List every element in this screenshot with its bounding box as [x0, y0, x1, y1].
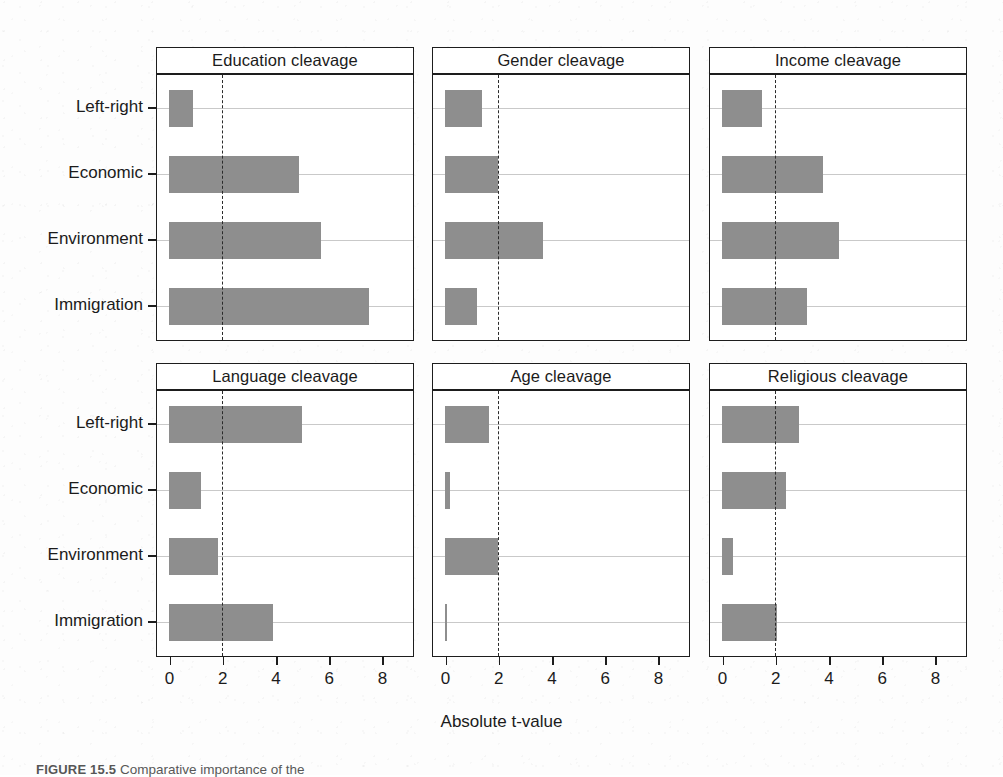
y-tick-label-economic: Economic — [68, 479, 143, 499]
x-tick — [552, 657, 554, 665]
bar-environment — [169, 538, 218, 575]
x-tick-label: 2 — [494, 669, 503, 689]
panel-gender-cleavage: Gender cleavage — [432, 47, 690, 343]
plot-area — [156, 74, 414, 341]
plot-area — [156, 390, 414, 657]
threshold-line — [222, 75, 223, 340]
bar-left-right — [722, 90, 762, 127]
bar-left-right — [445, 90, 482, 127]
panel-title-strip: Language cleavage — [156, 363, 414, 390]
x-tick — [223, 657, 225, 665]
x-axis-title: Absolute t-value — [0, 712, 1003, 732]
bar-immigration — [445, 604, 447, 641]
x-tick-label: 0 — [718, 669, 727, 689]
x-tick-label: 6 — [600, 669, 609, 689]
gridline — [433, 490, 689, 491]
bar-immigration — [169, 604, 273, 641]
threshold-line — [775, 75, 776, 340]
x-tick — [446, 657, 448, 665]
bar-economic — [445, 156, 498, 193]
figure-caption: FIGURE 15.5 Comparative importance of th… — [36, 762, 305, 777]
gridline — [157, 108, 413, 109]
panel-title-strip: Income cleavage — [709, 47, 967, 74]
plot-area — [432, 74, 690, 341]
bar-environment — [722, 538, 733, 575]
x-tick — [329, 657, 331, 665]
x-tick-label: 2 — [218, 669, 227, 689]
y-tick-label-immigration: Immigration — [54, 611, 143, 631]
bar-immigration — [722, 604, 777, 641]
panel-title: Age cleavage — [510, 367, 611, 386]
x-tick-label: 6 — [324, 669, 333, 689]
panel-title: Language cleavage — [212, 367, 358, 386]
panel-title: Education cleavage — [212, 51, 358, 70]
gridline — [433, 622, 689, 623]
bar-environment — [445, 222, 543, 259]
x-tick-label: 8 — [654, 669, 663, 689]
x-tick-label: 4 — [824, 669, 833, 689]
panel-title: Gender cleavage — [497, 51, 624, 70]
x-tick-label: 6 — [877, 669, 886, 689]
bar-immigration — [722, 288, 807, 325]
x-tick-label: 4 — [271, 669, 280, 689]
bar-environment — [445, 538, 498, 575]
panel-language-cleavage: Language cleavage — [156, 363, 414, 659]
bar-left-right — [169, 90, 193, 127]
y-tick-label-immigration: Immigration — [54, 295, 143, 315]
panel-education-cleavage: Education cleavage — [156, 47, 414, 343]
threshold-line — [222, 391, 223, 656]
x-tick-label: 8 — [931, 669, 940, 689]
panel-title-strip: Gender cleavage — [432, 47, 690, 74]
panel-title-strip: Education cleavage — [156, 47, 414, 74]
bar-left-right — [722, 406, 799, 443]
y-tick-label-left-right: Left-right — [76, 97, 143, 117]
bar-economic — [169, 156, 299, 193]
panel-income-cleavage: Income cleavage — [709, 47, 967, 343]
y-tick — [148, 489, 156, 491]
plot-area — [709, 74, 967, 341]
panel-religious-cleavage: Religious cleavage — [709, 363, 967, 659]
y-tick-label-economic: Economic — [68, 163, 143, 183]
y-tick — [148, 305, 156, 307]
y-tick-label-environment: Environment — [48, 229, 143, 249]
panel-age-cleavage: Age cleavage — [432, 363, 690, 659]
bar-immigration — [445, 288, 477, 325]
x-tick — [882, 657, 884, 665]
x-tick — [499, 657, 501, 665]
y-tick-label-left-right: Left-right — [76, 413, 143, 433]
y-tick — [148, 107, 156, 109]
y-tick — [148, 423, 156, 425]
x-tick — [658, 657, 660, 665]
x-tick — [829, 657, 831, 665]
x-tick — [776, 657, 778, 665]
bar-economic — [722, 156, 823, 193]
x-tick-label: 2 — [771, 669, 780, 689]
x-tick — [276, 657, 278, 665]
panel-title: Income cleavage — [775, 51, 901, 70]
panel-title-strip: Religious cleavage — [709, 363, 967, 390]
y-tick — [148, 621, 156, 623]
bar-left-right — [169, 406, 302, 443]
gridline — [710, 556, 966, 557]
plot-area — [709, 390, 967, 657]
x-tick — [170, 657, 172, 665]
panel-title: Religious cleavage — [768, 367, 908, 386]
bar-economic — [169, 472, 201, 509]
x-tick — [935, 657, 937, 665]
bar-economic — [722, 472, 786, 509]
panel-title-strip: Age cleavage — [432, 363, 690, 390]
threshold-line — [498, 75, 499, 340]
caption-body: Comparative importance of the — [120, 762, 305, 777]
x-tick — [382, 657, 384, 665]
x-tick — [723, 657, 725, 665]
bar-environment — [169, 222, 321, 259]
x-tick-label: 0 — [441, 669, 450, 689]
x-tick-label: 8 — [378, 669, 387, 689]
x-tick — [605, 657, 607, 665]
x-tick-label: 4 — [547, 669, 556, 689]
y-tick-label-environment: Environment — [48, 545, 143, 565]
x-tick-label: 0 — [165, 669, 174, 689]
bar-immigration — [169, 288, 369, 325]
bar-left-right — [445, 406, 489, 443]
